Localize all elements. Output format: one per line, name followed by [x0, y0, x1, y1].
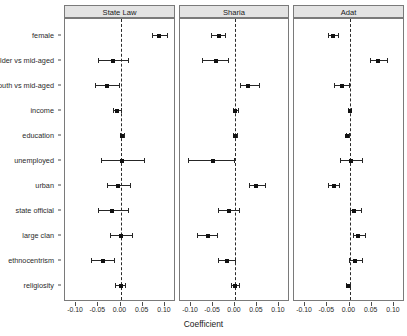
x-axis-tick-label: 0.00	[342, 306, 355, 313]
confidence-interval-cap	[365, 233, 366, 238]
y-axis-tick	[58, 84, 61, 85]
x-axis-tick-label: 0.05	[249, 306, 262, 313]
x-axis-sharia: -0.10-0.050.000.050.10	[179, 302, 289, 316]
plot-region-adat	[293, 18, 404, 301]
plot-region-state-law	[64, 18, 175, 301]
x-axis-tick-label: 0.10	[271, 306, 284, 313]
confidence-interval-cap	[101, 158, 102, 163]
estimate-point	[254, 184, 258, 188]
confidence-interval-cap	[387, 58, 388, 63]
estimate-point	[119, 234, 123, 238]
confidence-interval-cap	[361, 208, 362, 213]
confidence-interval-cap	[235, 258, 236, 263]
confidence-interval-cap	[91, 258, 92, 263]
y-axis-tick	[58, 284, 61, 285]
confidence-interval-cap	[339, 183, 340, 188]
x-axis-tick	[393, 302, 394, 306]
y-axis-label: education	[22, 130, 54, 139]
confidence-interval-cap	[218, 208, 219, 213]
x-axis-tick-label: 0.00	[113, 306, 126, 313]
confidence-interval-cap	[197, 233, 198, 238]
y-axis-tick	[58, 59, 61, 60]
estimate-point	[225, 259, 229, 263]
confidence-interval-cap	[95, 83, 96, 88]
confidence-interval-cap	[115, 283, 116, 288]
y-axis-tick	[58, 159, 61, 160]
estimate-point	[115, 109, 119, 113]
estimate-point	[110, 209, 114, 213]
panel-strip-state-law: State Law	[64, 5, 175, 18]
estimate-point	[246, 84, 250, 88]
confidence-interval-cap	[225, 33, 226, 38]
x-axis-tick	[212, 302, 213, 306]
panel-strip-sharia: Sharia	[179, 5, 289, 18]
confidence-interval-cap	[113, 108, 114, 113]
confidence-interval-cap	[353, 233, 354, 238]
estimate-point	[157, 34, 161, 38]
confidence-interval-cap	[328, 183, 329, 188]
x-axis-tick-label: 0.10	[157, 306, 170, 313]
x-axis-tick-label: -0.10	[182, 306, 198, 313]
y-axis-label: unemployed	[14, 155, 54, 164]
estimate-point	[346, 284, 350, 288]
confidence-interval-cap	[211, 33, 212, 38]
panel-title-sharia: Sharia	[180, 7, 288, 16]
confidence-interval-cap	[132, 233, 133, 238]
confidence-interval-cap	[124, 133, 125, 138]
estimate-point	[116, 184, 120, 188]
confidence-interval-cap	[370, 58, 371, 63]
x-axis-tick	[142, 302, 143, 306]
panel-strip-adat: Adat	[293, 5, 404, 18]
confidence-interval-cap	[130, 183, 131, 188]
confidence-interval-cap	[121, 108, 122, 113]
plot-region-sharia	[179, 18, 289, 301]
y-axis-label: female	[32, 30, 54, 39]
confidence-interval-cap	[98, 58, 99, 63]
confidence-interval-cap	[265, 183, 266, 188]
confidence-interval-cap	[350, 283, 351, 288]
y-axis-tick	[58, 209, 61, 210]
confidence-interval-cap	[107, 183, 108, 188]
x-axis-tick	[190, 302, 191, 306]
estimate-point	[119, 284, 123, 288]
y-axis-label: older vs mid-aged	[0, 55, 54, 64]
confidence-interval-cap	[328, 33, 329, 38]
x-axis-tick-label: -0.05	[89, 306, 105, 313]
estimate-point	[120, 134, 124, 138]
confidence-interval-cap	[202, 58, 203, 63]
y-axis-label: state official	[16, 205, 54, 214]
forest-plot: femaleolder vs mid-agedyouth vs mid-aged…	[0, 0, 407, 336]
y-axis-tick	[58, 184, 61, 185]
confidence-interval-cap	[249, 183, 250, 188]
confidence-interval-cap	[128, 208, 129, 213]
confidence-interval-cap	[167, 33, 168, 38]
panel-title-state-law: State Law	[65, 7, 174, 16]
estimate-point	[101, 259, 105, 263]
x-axis-tick-label: 0.05	[364, 306, 377, 313]
estimate-point	[332, 184, 336, 188]
y-axis-tick	[58, 134, 61, 135]
y-axis-label: ethnocentrism	[8, 255, 54, 264]
y-axis-label: income	[30, 105, 54, 114]
confidence-interval-cap	[144, 158, 145, 163]
confidence-interval-cap	[338, 33, 339, 38]
confidence-interval-cap	[231, 283, 232, 288]
confidence-interval-cap	[228, 58, 229, 63]
y-axis-labels: femaleolder vs mid-agedyouth vs mid-aged…	[0, 0, 58, 336]
confidence-interval-cap	[128, 58, 129, 63]
estimate-point	[376, 59, 380, 63]
x-axis-tick	[97, 302, 98, 306]
confidence-interval-cap	[362, 158, 363, 163]
estimate-point	[331, 34, 335, 38]
confidence-interval-cap	[239, 283, 240, 288]
x-axis-tick	[75, 302, 76, 306]
estimate-point	[233, 134, 237, 138]
x-axis-tick	[164, 302, 165, 306]
y-axis-label: youth vs mid-aged	[0, 80, 54, 89]
confidence-interval-cap	[350, 208, 351, 213]
x-axis-tick-label: -0.05	[318, 306, 334, 313]
x-axis-tick-label: -0.05	[204, 306, 220, 313]
estimate-point	[227, 209, 231, 213]
confidence-interval-cap	[349, 83, 350, 88]
confidence-interval-cap	[152, 33, 153, 38]
